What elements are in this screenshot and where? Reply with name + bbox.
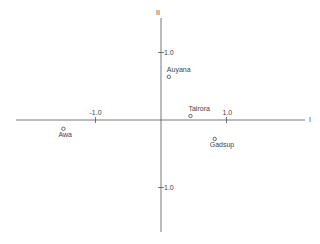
point-label-awa: Awa xyxy=(58,131,72,139)
y-tick-label: 1.0 xyxy=(164,49,174,57)
point-label-tairora: Tairora xyxy=(188,105,209,113)
x-tick-label: 1.0 xyxy=(223,109,233,117)
point-marker-tairora xyxy=(189,114,192,117)
point-marker-auyana xyxy=(167,75,170,78)
y-tick-label: 1.0 xyxy=(164,184,174,192)
point-label-gadsup: Gadsup xyxy=(210,141,235,149)
x-axis-name: I xyxy=(309,116,311,124)
y-axis-name: II xyxy=(156,9,160,17)
scatter-plot xyxy=(0,0,320,244)
point-label-auyana: Auyana xyxy=(167,66,191,74)
x-tick-label: -1.0 xyxy=(90,109,102,117)
